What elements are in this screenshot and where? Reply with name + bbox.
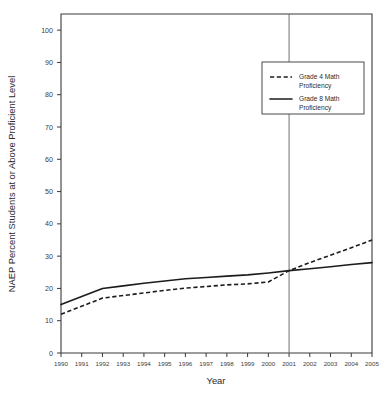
line-chart-canvas: 0102030405060708090100 19901991199219931…: [0, 0, 386, 395]
x-tick-label: 1995: [158, 360, 172, 367]
x-tick-label: 2005: [365, 360, 379, 367]
x-tick-label: 1997: [199, 360, 213, 367]
y-tick-label: 10: [45, 317, 53, 325]
x-tick-label: 1999: [241, 360, 255, 367]
series-line-grade-8: [61, 263, 372, 305]
x-axis-title: Year: [207, 375, 226, 386]
y-tick-label: 100: [41, 27, 53, 35]
x-axis-ticks: 1990199119921993199419951996199719981999…: [54, 353, 379, 367]
chart-figure: 0102030405060708090100 19901991199219931…: [0, 0, 386, 395]
x-tick-label: 2000: [261, 360, 275, 367]
x-tick-label: 1994: [137, 360, 151, 367]
x-tick-label: 2004: [344, 360, 358, 367]
x-tick-label: 2001: [282, 360, 296, 367]
legend-label-grade-8-line1: Grade 8 Math: [299, 95, 340, 102]
x-tick-label: 1992: [96, 360, 110, 367]
y-tick-label: 0: [49, 350, 53, 358]
y-axis-title: NAEP Percent Students at or Above Profic…: [6, 76, 17, 293]
y-axis-ticks: 0102030405060708090100: [41, 27, 61, 358]
y-tick-label: 90: [45, 59, 53, 67]
y-tick-label: 50: [45, 188, 53, 196]
x-tick-label: 1998: [220, 360, 234, 367]
y-tick-label: 30: [45, 253, 53, 261]
legend-label-grade-4-line2: Proficiency: [299, 82, 332, 90]
x-tick-label: 1996: [179, 360, 193, 367]
legend-label-grade-8-line2: Proficiency: [299, 104, 332, 112]
y-tick-label: 80: [45, 91, 53, 99]
x-tick-label: 2002: [303, 360, 317, 367]
legend-label-grade-4-line1: Grade 4 Math: [299, 73, 340, 80]
y-tick-label: 40: [45, 220, 53, 228]
y-tick-label: 20: [45, 285, 53, 293]
y-tick-label: 70: [45, 124, 53, 132]
x-tick-label: 1990: [54, 360, 68, 367]
x-tick-label: 1993: [116, 360, 130, 367]
y-tick-label: 60: [45, 156, 53, 164]
x-tick-label: 1991: [75, 360, 89, 367]
chart-legend: Grade 4 Math Proficiency Grade 8 Math Pr…: [262, 62, 364, 114]
x-tick-label: 2003: [324, 360, 338, 367]
